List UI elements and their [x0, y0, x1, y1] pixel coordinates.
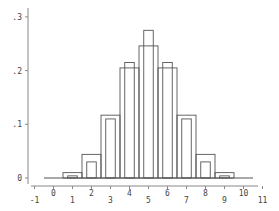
inner-bars — [68, 30, 230, 178]
y-tick-label: .2 — [12, 67, 22, 76]
y-tick-label: 0 — [17, 174, 22, 183]
inner-bar — [68, 176, 78, 178]
outer-bar — [177, 115, 196, 178]
inner-bar — [201, 162, 211, 178]
x-tick-label: 3 — [108, 196, 113, 205]
y-tick-label: .1 — [12, 120, 22, 129]
x-tick-label: 9 — [222, 196, 227, 205]
outer-bar — [215, 173, 234, 178]
x-tick-label: 0 — [51, 189, 56, 198]
x-tick-label: 5 — [146, 196, 151, 205]
inner-bar — [125, 63, 135, 178]
inner-bar — [87, 162, 97, 178]
outer-bar — [196, 154, 215, 178]
x-axis: -101234567891011 — [30, 186, 268, 205]
x-tick-label: 4 — [127, 189, 132, 198]
inner-bar — [144, 30, 154, 178]
x-tick-label: -1 — [30, 196, 40, 205]
outer-bar — [82, 154, 101, 178]
outer-bar — [158, 68, 177, 178]
x-tick-label: 1 — [70, 196, 75, 205]
x-tick-label: 10 — [239, 189, 249, 198]
x-tick-label: 2 — [89, 189, 94, 198]
inner-bar — [106, 119, 116, 178]
x-tick-label: 7 — [184, 196, 189, 205]
outer-bar — [120, 68, 139, 178]
outer-bar — [101, 115, 120, 178]
outer-bar — [63, 173, 82, 178]
inner-bar — [220, 176, 230, 178]
x-tick-label: 8 — [203, 189, 208, 198]
inner-bar — [182, 119, 192, 178]
inner-bar — [163, 63, 173, 178]
x-tick-label: 6 — [165, 189, 170, 198]
y-tick-label: .3 — [12, 13, 22, 22]
histogram-chart: 0.1.2.3 -101234567891011 — [0, 0, 279, 211]
outer-bars — [44, 46, 253, 178]
x-tick-label: 11 — [258, 196, 268, 205]
outer-bar — [139, 46, 158, 178]
y-axis: 0.1.2.3 — [12, 8, 28, 184]
